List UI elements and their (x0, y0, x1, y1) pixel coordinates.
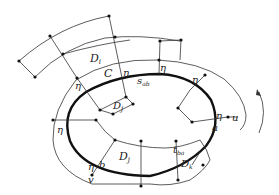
label-C: C (104, 67, 113, 80)
label-v: v (88, 174, 94, 185)
label-eta-2: η (123, 67, 129, 78)
spoke-a (192, 117, 228, 122)
label-eta-1: η (75, 80, 81, 91)
label-Di-top: Di (89, 52, 101, 66)
spoke-2 (50, 36, 77, 78)
label-eta-4: η (192, 74, 198, 85)
spoke-a3 (178, 90, 190, 108)
label-eta-3: η (160, 62, 166, 73)
spoke-a2 (178, 108, 192, 122)
arrow-head-icon (256, 89, 261, 96)
label-eta-6: η (57, 124, 63, 135)
spoke-3 (109, 16, 126, 97)
label-eta-5: η (216, 110, 222, 121)
label-b: b (99, 159, 105, 170)
label-s-ab: sab (137, 75, 150, 87)
label-eta-7: η (88, 161, 94, 172)
label-a: a (212, 122, 218, 133)
upper-box (160, 40, 181, 60)
label-u: u (232, 112, 238, 123)
counterclockwise-arrow (259, 92, 264, 133)
diagram-canvas: Di C Dj sab tba Dj Dk a b u v η η η η η … (0, 0, 279, 195)
spoke-1 (19, 61, 35, 77)
label-Dj-bottom: Dj (118, 150, 131, 164)
